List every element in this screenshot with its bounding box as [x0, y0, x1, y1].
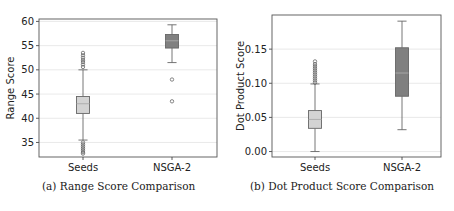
- y-axis-label: Range Score: [5, 57, 16, 120]
- box-nsga-2: [396, 21, 409, 130]
- y-tick-label: 0.15: [245, 44, 267, 55]
- y-tick-label: 35: [21, 137, 34, 148]
- caption-dot-product-score: (b) Dot Product Score Comparison: [250, 180, 434, 192]
- outlier-point: [170, 100, 173, 103]
- y-tick-label: 60: [21, 16, 34, 27]
- x-tick-label: NSGA-2: [153, 162, 191, 173]
- y-tick-label: 0.10: [245, 78, 267, 89]
- y-tick-label: 0.05: [245, 112, 267, 123]
- dot-product-score-plot: 0.000.050.100.15Dot Product ScoreSeedsNS…: [227, 0, 454, 175]
- y-tick-label: 50: [21, 64, 34, 75]
- y-axis-label: Dot Product Score: [235, 41, 246, 131]
- caption-range-score: (a) Range Score Comparison: [42, 180, 195, 192]
- box-seeds: [77, 51, 90, 155]
- axes-frame: [39, 19, 217, 157]
- x-tick-label: Seeds: [300, 162, 330, 173]
- y-tick-label: 0.00: [245, 146, 267, 157]
- iqr-box: [77, 96, 90, 113]
- outlier-point: [81, 51, 84, 54]
- y-tick-label: 45: [21, 89, 34, 100]
- box-seeds: [309, 60, 322, 152]
- box-nsga-2: [166, 25, 179, 103]
- iqr-box: [166, 34, 179, 48]
- x-tick-label: NSGA-2: [383, 162, 421, 173]
- y-tick-label: 55: [21, 40, 34, 51]
- range-score-plot: 354045505560Range ScoreSeedsNSGA-2: [0, 0, 227, 175]
- x-tick-label: Seeds: [68, 162, 98, 173]
- axes-frame: [272, 15, 441, 157]
- iqr-box: [396, 48, 409, 96]
- y-tick-label: 40: [21, 113, 34, 124]
- outlier-point: [170, 78, 173, 81]
